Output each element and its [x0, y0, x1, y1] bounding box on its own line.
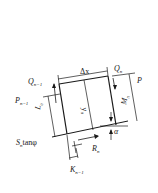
p-n1-label: Pn−1	[14, 96, 28, 106]
l-n-dimension	[43, 94, 60, 137]
sn-tanphi-label: Sntanφ	[16, 138, 37, 148]
k-n1-dimension	[67, 135, 78, 160]
y-n-label: yn	[79, 106, 90, 115]
k-n1-label: Kn−1	[69, 165, 84, 175]
y-n-dimension	[84, 80, 93, 130]
r-n-label: Rn	[91, 144, 100, 154]
p-label: P	[136, 76, 142, 85]
q-n-label: Qn	[114, 64, 123, 74]
m-n-label: Mn	[119, 94, 131, 106]
delta-x-label: Δx	[80, 67, 89, 76]
q-n1-arrow	[52, 83, 56, 103]
slice-diagram: Δx yn Ln Mn Qn−1 Qn P Pn−1 α Sntanφ	[0, 0, 158, 193]
l-n-label: Ln	[33, 101, 44, 111]
alpha-label: α	[114, 127, 119, 136]
q-n1-label: Qn−1	[28, 77, 42, 87]
q-n-arrow	[113, 78, 117, 90]
